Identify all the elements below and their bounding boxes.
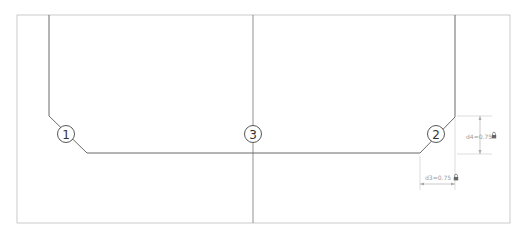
callout-3[interactable]: 3	[245, 126, 262, 143]
callout-3-label: 3	[249, 128, 257, 142]
callout-2-label: 2	[432, 128, 440, 142]
callout-1[interactable]: 1	[58, 126, 75, 143]
callout-1-label: 1	[62, 128, 70, 142]
chamfer-sketch-diagram: d4=0.75 d3=0.75 1 3 2	[0, 0, 529, 235]
lock-icon	[454, 174, 458, 180]
callout-2[interactable]: 2	[428, 126, 445, 143]
dimension-d4[interactable]: d4=0.75	[457, 116, 496, 154]
lock-icon	[492, 132, 496, 138]
dimension-d4-label: d4=0.75	[466, 133, 492, 140]
dimension-d3-label: d3=0.75	[425, 174, 451, 181]
outer-frame	[17, 15, 510, 223]
